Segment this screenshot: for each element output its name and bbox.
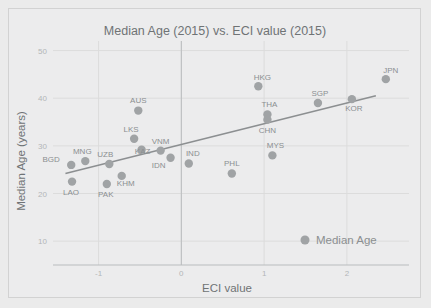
point-label-hkg: HKG (254, 73, 271, 82)
x-axis-ticks: -1012 (95, 269, 350, 278)
point-label-tha: THA (261, 100, 278, 109)
data-point-kor[interactable] (348, 95, 356, 103)
data-point-aus[interactable] (134, 106, 142, 114)
data-points[interactable]: BGDLAOMNGUZBPAKKHMAUSLKSKAZVNMIDNINDPHLM… (43, 66, 399, 199)
y-tick-label: 30 (38, 142, 47, 151)
data-point-ind[interactable] (185, 159, 193, 167)
point-label-pak: PAK (98, 190, 114, 199)
point-label-uzb: UZB (97, 150, 113, 159)
point-label-lks: LKS (124, 125, 139, 134)
data-point-hkg[interactable] (254, 82, 262, 90)
point-label-aus: AUS (130, 96, 146, 105)
data-point-phl[interactable] (228, 169, 236, 177)
y-axis-ticks: 1020304050 (38, 47, 47, 247)
data-point-mng[interactable] (81, 157, 89, 165)
y-tick-label: 10 (38, 237, 47, 246)
point-label-phl: PHL (224, 159, 240, 168)
y-axis-title: Median Age (years) (15, 111, 27, 211)
x-tick-label: 2 (345, 269, 350, 278)
x-tick-label: 0 (179, 269, 184, 278)
point-label-mng: MNG (73, 147, 92, 156)
point-label-jpn: JPN (383, 66, 398, 75)
point-label-vnm: VNM (152, 137, 170, 146)
data-point-pak[interactable] (103, 180, 111, 188)
x-tick-label: -1 (95, 269, 103, 278)
data-point-vnm[interactable] (156, 146, 164, 154)
data-point-bgd[interactable] (67, 161, 75, 169)
data-point-mys[interactable] (268, 151, 276, 159)
scatter-plot[interactable]: BGDLAOMNGUZBPAKKHMAUSLKSKAZVNMIDNINDPHLM… (9, 9, 422, 299)
y-tick-label: 20 (38, 190, 47, 199)
data-point-chn[interactable] (263, 115, 271, 123)
x-tick-label: 1 (262, 269, 267, 278)
data-point-sgp[interactable] (314, 99, 322, 107)
data-point-uzb[interactable] (105, 160, 113, 168)
x-axis-title: ECI value (202, 282, 252, 294)
y-tick-label: 50 (38, 47, 47, 56)
y-tick-label: 40 (38, 94, 47, 103)
chart-card: BGDLAOMNGUZBPAKKHMAUSLKSKAZVNMIDNINDPHLM… (8, 8, 421, 298)
point-label-bgd: BGD (43, 155, 61, 164)
data-point-lao[interactable] (68, 177, 76, 185)
point-label-chn: CHN (259, 126, 277, 135)
point-label-kor: KOR (345, 104, 363, 113)
legend[interactable]: Median Age (301, 234, 377, 246)
point-label-kaz: KAZ (135, 147, 151, 156)
point-label-sgp: SGP (311, 89, 328, 98)
legend-marker-icon (301, 236, 310, 245)
point-label-lao: LAO (63, 188, 79, 197)
data-point-lks[interactable] (130, 135, 138, 143)
point-label-ind: IND (186, 149, 200, 158)
legend-label: Median Age (316, 234, 377, 246)
data-point-jpn[interactable] (382, 75, 390, 83)
point-label-idn: IDN (152, 161, 166, 170)
point-label-khm: KHM (117, 179, 135, 188)
chart-title: Median Age (2015) vs. ECI value (2015) (104, 24, 326, 38)
point-label-mys: MYS (267, 141, 284, 150)
data-point-idn[interactable] (166, 154, 174, 162)
